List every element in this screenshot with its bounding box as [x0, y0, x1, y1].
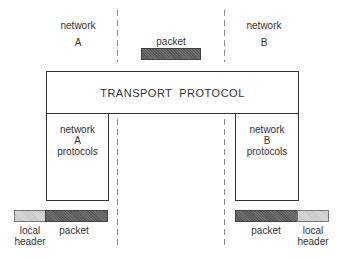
right-local-header-line2: header [293, 236, 333, 247]
network-a-protocols-label: network A protocols [47, 124, 108, 157]
divider-left-bottom [117, 119, 118, 249]
left-local-header-line2: header [10, 236, 50, 247]
network-a-label-line2: A [50, 37, 106, 48]
network-a-protocols-line1: network [47, 124, 108, 135]
right-local-header-label: local header [293, 225, 333, 247]
left-packet-label: packet [54, 225, 94, 236]
network-b-label-line1: network [236, 20, 292, 31]
transport-protocol-label: TRANSPORT PROTOCOL [47, 87, 298, 99]
divider-left-top [117, 10, 118, 62]
network-a-label-line1: network [50, 20, 106, 31]
network-a-protocols-line3: protocols [47, 146, 108, 157]
network-b-label-line2: B [236, 37, 292, 48]
left-local-header-line1: local [10, 225, 50, 236]
left-packet-bar [45, 210, 108, 222]
divider-right-bottom [224, 119, 225, 249]
divider-right-top [224, 10, 225, 62]
right-packet-label: packet [246, 225, 286, 236]
top-packet-label: packet [141, 36, 201, 47]
top-packet-bar [141, 48, 201, 60]
network-a-label: network A [50, 20, 106, 48]
network-a-protocols-line2: A [47, 135, 108, 146]
network-b-protocols-line2: B [236, 135, 298, 146]
network-b-protocols-label: network B protocols [236, 124, 298, 157]
right-local-header-line1: local [293, 225, 333, 236]
network-b-protocols-line1: network [236, 124, 298, 135]
network-a-protocols-box: network A protocols [46, 113, 109, 201]
left-local-header-bar [14, 210, 46, 222]
transport-protocol-box: TRANSPORT PROTOCOL [46, 71, 299, 114]
right-packet-bar [235, 210, 298, 222]
network-b-protocols-box: network B protocols [235, 113, 299, 201]
network-b-protocols-line3: protocols [236, 146, 298, 157]
network-b-label: network B [236, 20, 292, 48]
left-local-header-label: local header [10, 225, 50, 247]
right-local-header-bar [297, 210, 329, 222]
